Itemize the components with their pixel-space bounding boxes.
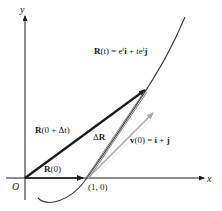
vector-diagram: y x O (1, 0) R(t) = eti + tetj R(0 + Δt)… (0, 0, 222, 211)
x-axis-label: x (206, 173, 212, 184)
r-0-plus-dt-label: R(0 + Δt) (35, 125, 70, 135)
origin-label: O (12, 181, 19, 192)
r-0-label: R(0) (44, 164, 61, 174)
delta-r-label: ΔR (93, 132, 106, 142)
point-1-0-label: (1, 0) (88, 182, 108, 192)
curve-r-of-t (38, 17, 185, 202)
y-axis-label: y (19, 4, 25, 15)
curve-equation-label: R(t) = eti + tetj (94, 46, 148, 56)
vector-v-0 (88, 113, 153, 178)
v-0-label: v(0) = i + j (130, 135, 170, 145)
